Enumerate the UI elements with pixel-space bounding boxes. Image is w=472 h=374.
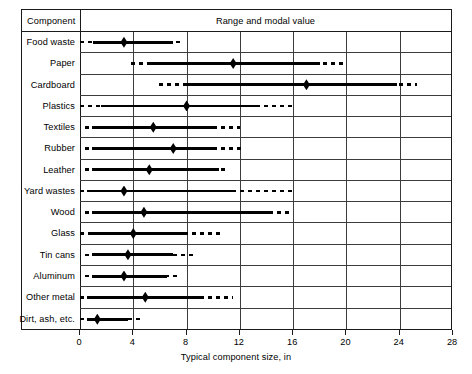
x-tick-16: [292, 330, 293, 335]
x-tick-label-24: 24: [394, 337, 404, 347]
row-label-glass: Glass: [51, 223, 75, 244]
table-row: Cardboard: [80, 75, 451, 96]
modal-value-marker: [130, 228, 137, 239]
table-row: Aluminum: [80, 266, 451, 287]
table-row: Wood: [80, 202, 451, 223]
row-label-other-metal: Other metal: [26, 287, 75, 308]
row-label-yard-wastes: Yard wastes: [24, 181, 75, 202]
table-row: Food waste: [80, 32, 451, 53]
modal-value-marker: [120, 186, 127, 197]
modal-value-marker: [230, 58, 237, 69]
row-label-leather: Leather: [43, 160, 75, 181]
header-range-label: Range and modal value: [80, 10, 451, 31]
row-label-textiles: Textiles: [44, 117, 75, 138]
x-tick-4: [132, 330, 133, 335]
modal-value-marker: [94, 314, 101, 325]
range-bar: [92, 232, 187, 235]
range-bar: [92, 211, 269, 214]
x-tick-12: [239, 330, 240, 335]
row-label-tin-cans: Tin cans: [40, 245, 75, 266]
modal-value-marker: [142, 292, 149, 303]
range-bar: [92, 147, 216, 150]
plot-area: Food wastePaperCardboardPlasticsTextiles…: [80, 32, 451, 329]
modal-value-marker: [120, 271, 127, 282]
x-axis-title: Typical component size, in: [0, 352, 472, 362]
x-tick-20: [345, 330, 346, 335]
modal-value-marker: [124, 249, 131, 260]
modal-value-marker: [140, 207, 147, 218]
header-component-label: Component: [22, 10, 80, 31]
x-tick-0: [79, 330, 80, 335]
table-row: Paper: [80, 53, 451, 74]
table-row: Leather: [80, 160, 451, 181]
range-bar: [92, 275, 167, 278]
x-tick-label-0: 0: [76, 337, 81, 347]
row-label-aluminum: Aluminum: [33, 266, 75, 287]
x-tick-28: [452, 330, 453, 335]
modal-value-marker: [146, 164, 153, 175]
row-label-plastics: Plastics: [43, 96, 75, 117]
table-row: Dirt, ash, etc.: [80, 309, 451, 330]
row-label-rubber: Rubber: [44, 138, 75, 159]
table-row: Yard wastes: [80, 181, 451, 202]
table-header-row: Component Range and modal value: [22, 10, 451, 32]
range-bar: [187, 83, 397, 86]
range-bar: [101, 105, 260, 108]
x-tick-24: [399, 330, 400, 335]
x-axis: 0481216202428: [79, 330, 452, 331]
range-bar: [87, 190, 234, 193]
chart-page: Component Range and modal value Food was…: [0, 0, 472, 374]
table-row: Other metal: [80, 287, 451, 308]
table-row: Plastics: [80, 96, 451, 117]
range-bar: [92, 168, 219, 171]
modal-value-marker: [303, 79, 310, 90]
x-tick-label-12: 12: [234, 337, 244, 347]
range-bar: [87, 318, 128, 321]
table-row: Tin cans: [80, 245, 451, 266]
row-label-cardboard: Cardboard: [31, 75, 75, 96]
modal-value-marker: [183, 100, 190, 111]
row-label-wood: Wood: [51, 202, 75, 223]
x-tick-label-8: 8: [183, 337, 188, 347]
x-tick-label-20: 20: [340, 337, 350, 347]
x-tick-label-16: 16: [287, 337, 297, 347]
row-label-food-waste: Food waste: [27, 32, 76, 53]
modal-value-marker: [120, 37, 127, 48]
x-tick-label-4: 4: [130, 337, 135, 347]
range-bar: [92, 253, 173, 256]
x-tick-8: [186, 330, 187, 335]
table-row: Textiles: [80, 117, 451, 138]
range-bar: [93, 41, 173, 44]
chart-frame: Component Range and modal value Food was…: [21, 9, 452, 330]
table-row: Rubber: [80, 138, 451, 159]
x-tick-label-28: 28: [447, 337, 457, 347]
table-row: Glass: [80, 223, 451, 244]
row-label-paper: Paper: [50, 53, 75, 74]
modal-value-marker: [170, 143, 177, 154]
row-label-dirt-ash-etc: Dirt, ash, etc.: [19, 309, 75, 330]
modal-value-marker: [150, 122, 157, 133]
